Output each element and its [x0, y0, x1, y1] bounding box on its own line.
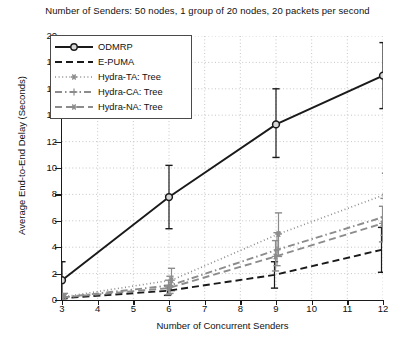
legend-item-2: E-PUMA — [54, 54, 187, 69]
legend-item-4: Hydra-CA: Tree — [54, 85, 187, 100]
legend-label: Hydra-NA: Tree — [94, 102, 163, 112]
y-tick-label: 6 — [31, 215, 57, 226]
marker-circle — [380, 72, 383, 79]
legend-label: E-PUMA — [94, 57, 134, 67]
legend-item-3: Hydra-TA: Tree — [54, 69, 187, 84]
series-line-2 — [62, 250, 382, 299]
legend-item-1: ODMRP — [54, 39, 187, 54]
chart-legend: ODMRPE-PUMAHydra-TA: TreeHydra-CA: TreeH… — [50, 35, 192, 119]
marker-circle — [62, 277, 65, 284]
legend-label: Hydra-CA: Tree — [94, 87, 163, 97]
legend-item-5: Hydra-NA: Tree — [54, 100, 187, 115]
legend-line-sample — [54, 55, 94, 69]
legend-label: ODMRP — [94, 42, 133, 52]
chart-title: Number of Senders: 50 nodes, 1 group of … — [0, 5, 415, 16]
legend-line-sample — [54, 100, 94, 114]
marker-circle — [273, 121, 280, 128]
y-tick-label: 12 — [31, 136, 57, 147]
series-line-4 — [63, 217, 383, 298]
series-markers-4 — [62, 213, 383, 300]
y-axis-label: Average End-to-End Delay (Seconds) — [16, 31, 27, 281]
errorbar-group-5 — [62, 206, 383, 299]
x-axis-label: Number of Concurrent Senders — [62, 320, 383, 331]
legend-line-sample — [54, 85, 94, 99]
series-line-3 — [65, 194, 384, 296]
marker-circle — [166, 194, 173, 201]
y-tick-label: 4 — [31, 241, 57, 252]
y-tick-label: 8 — [31, 188, 57, 199]
x-axis-tick-labels: 3456789101112 — [62, 303, 383, 319]
legend-line-sample — [54, 40, 94, 54]
y-tick-label: 10 — [31, 162, 57, 173]
legend-label: Hydra-TA: Tree — [94, 72, 161, 82]
x-tick-mark — [383, 300, 384, 305]
chart-figure: Number of Senders: 50 nodes, 1 group of … — [0, 0, 415, 343]
legend-line-sample — [54, 70, 94, 84]
y-tick-label: 2 — [31, 268, 57, 279]
series-markers-3 — [62, 192, 383, 300]
errorbar-group-3 — [62, 173, 383, 298]
legend-marker-circle — [71, 43, 77, 49]
